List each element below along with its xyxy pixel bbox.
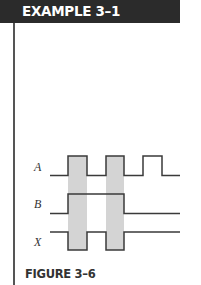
signal-label-a: A bbox=[34, 160, 41, 175]
signal-label-x: X bbox=[34, 235, 41, 250]
timing-diagram bbox=[0, 0, 201, 285]
figure-caption: FIGURE 3–6 bbox=[25, 267, 95, 281]
highlight-bands bbox=[68, 156, 124, 250]
signal-label-b: B bbox=[34, 197, 41, 212]
